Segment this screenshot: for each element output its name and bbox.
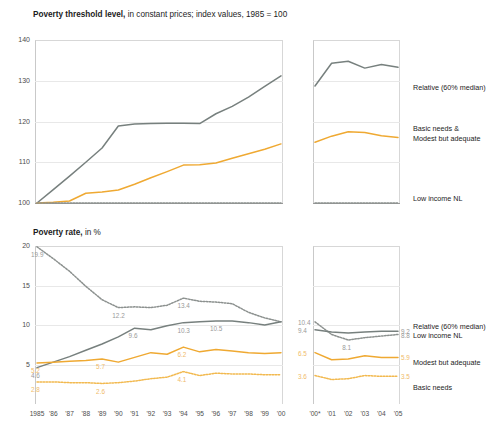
data-label-9-4: 9.4 <box>298 327 307 334</box>
bottom-left-plot <box>35 246 283 404</box>
legend-low-income-bottom-label: Low income NL <box>413 331 463 340</box>
data-label-9-6: 9.6 <box>129 332 138 339</box>
top-ytick-120: 120 <box>4 118 30 125</box>
data-label-3-5: 3.5 <box>401 373 410 380</box>
bottom-ytick-15: 15 <box>4 282 30 289</box>
data-label-2-8: 2.8 <box>31 386 40 393</box>
series-basic-needs <box>37 372 281 384</box>
legend-relative-bottom-label: Relative (60% median) <box>413 322 486 331</box>
series-basic-needs <box>315 376 398 380</box>
data-label-10-4: 10.4 <box>298 319 310 326</box>
xtick-00: '00 <box>270 410 292 417</box>
bottom-chart-title-bold: Poverty rate, <box>33 228 83 237</box>
top-chart-title-rest: in constant prices; index values, 1985 =… <box>125 10 287 19</box>
data-label-19-9: 19.9 <box>31 251 43 258</box>
series-relative-60-median- <box>315 330 398 333</box>
bottom-right-plot <box>313 246 400 404</box>
xtick-05: '05 <box>387 410 409 417</box>
series-low-income-nl <box>37 247 281 322</box>
series-relative-60-median- <box>315 61 398 86</box>
legend-modest-bottom-label: Modest but adequate <box>413 358 481 367</box>
legend-relative-top-label: Relative (60% median) <box>413 83 486 92</box>
bottom-ytick-20: 20 <box>4 242 30 249</box>
data-label-13-4: 13.4 <box>177 302 189 309</box>
top-left-plot <box>35 40 283 203</box>
top-left-panel <box>35 40 283 203</box>
legend-low-income-bottom: Low income NL <box>413 331 463 341</box>
top-right-plot <box>313 40 400 203</box>
top-chart-title-bold: Poverty threshold level, <box>33 10 125 19</box>
poverty-threshold-chart: Poverty threshold level, in constant pri… <box>0 0 503 218</box>
data-label-8-8: 8.8 <box>401 332 410 339</box>
data-label-4-1: 4.1 <box>177 376 186 383</box>
legend-modest-bottom: Modest but adequate <box>413 358 481 368</box>
data-label-5-2: 5.2 <box>31 367 40 374</box>
data-label-10-5: 10.5 <box>210 325 222 332</box>
top-chart-title: Poverty threshold level, in constant pri… <box>33 10 287 19</box>
legend-low-income-top-label: Low income NL <box>413 194 463 203</box>
legend-relative-top: Relative (60% median) <box>413 83 486 93</box>
bottom-right-panel: 10.49.48.16.53.69.28.85.93.5 <box>313 246 400 404</box>
bottom-chart-title-rest: in % <box>83 228 101 237</box>
top-ytick-130: 130 <box>4 77 30 84</box>
legend-basic-top-label: Basic needs & <box>413 124 481 134</box>
data-label-10-3: 10.3 <box>177 327 189 334</box>
series-relative-60-median- <box>37 76 281 203</box>
legend-basic-modest-top: Basic needs & Modest but adequate <box>413 124 481 143</box>
legend-basic-bottom: Basic needs <box>413 383 452 393</box>
data-label-12-2: 12.2 <box>112 312 124 319</box>
top-ytick-100: 100 <box>4 199 30 206</box>
data-label-8-1: 8.1 <box>342 344 351 351</box>
data-label-3-6: 3.6 <box>298 373 307 380</box>
bottom-ytick-5: 5 <box>4 361 30 368</box>
top-ytick-140: 140 <box>4 36 30 43</box>
data-label-6-2: 6.2 <box>177 351 186 358</box>
data-label-6-5: 6.5 <box>298 350 307 357</box>
data-label-2-6: 2.6 <box>96 388 105 395</box>
data-label-5-7: 5.7 <box>96 363 105 370</box>
legend-modest-top-label: Modest but adequate <box>413 134 481 144</box>
bottom-left-panel: 19.912.213.49.610.310.54.65.25.76.22.82.… <box>35 246 283 404</box>
top-ytick-110: 110 <box>4 158 30 165</box>
legend-basic-bottom-label: Basic needs <box>413 383 452 392</box>
poverty-rate-chart: Poverty rate, in % 5101520 19.912.213.49… <box>0 218 503 436</box>
top-right-panel <box>313 40 400 203</box>
legend-low-income-top: Low income NL <box>413 194 463 204</box>
bottom-chart-title: Poverty rate, in % <box>33 228 101 237</box>
data-label-5-9: 5.9 <box>401 354 410 361</box>
series-modest-but-adequate <box>315 353 398 360</box>
bottom-ytick-10: 10 <box>4 321 30 328</box>
series-basic-needs-modest-but-adequate <box>315 132 398 143</box>
